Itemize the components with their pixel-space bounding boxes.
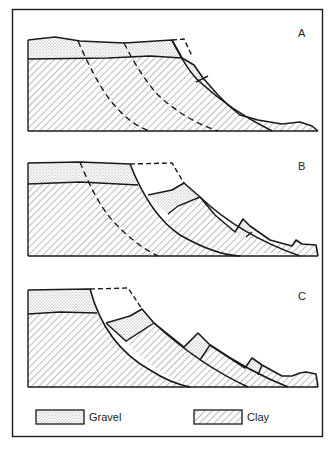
panel-label-a: A (298, 27, 306, 39)
gravel-swatch (36, 410, 84, 424)
gravel-layer (28, 289, 97, 314)
panel-label-b: B (298, 160, 305, 172)
panel-c: C (28, 288, 318, 387)
legend-label-gravel: Gravel (89, 411, 121, 423)
former-profile-dashed (90, 288, 142, 309)
clay-swatch (194, 410, 242, 424)
legend: Gravel Clay (36, 410, 270, 424)
panel-a: A (28, 27, 318, 131)
legend-item-clay: Clay (194, 410, 270, 424)
panel-b: B (28, 160, 318, 256)
former-profile-dashed (130, 163, 184, 183)
legend-label-clay: Clay (247, 411, 270, 423)
clay-layer (28, 55, 318, 131)
landslide-diagram: A B (0, 0, 334, 450)
legend-item-gravel: Gravel (36, 410, 121, 424)
panel-label-c: C (298, 290, 306, 302)
